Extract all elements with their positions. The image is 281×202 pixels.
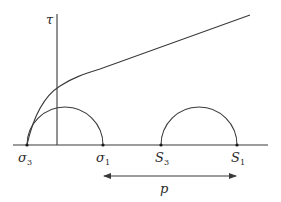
point-S1 <box>235 143 238 146</box>
mohr-diagram: τ σ3 σ1 S3 S1 p <box>0 0 281 202</box>
label-S1: S1 <box>231 150 245 167</box>
point-sigma3 <box>25 143 28 146</box>
failure-envelope <box>27 15 250 145</box>
point-S3 <box>159 143 162 146</box>
label-sigma1: σ1 <box>96 150 110 167</box>
label-S3: S3 <box>155 150 169 167</box>
tau-label: τ <box>46 12 54 27</box>
label-sigma3: σ3 <box>18 150 32 167</box>
label-p: p <box>160 181 169 196</box>
point-sigma1 <box>101 143 104 146</box>
mohr-circle-shifted <box>161 107 237 145</box>
mohr-circle-stress <box>27 107 103 145</box>
